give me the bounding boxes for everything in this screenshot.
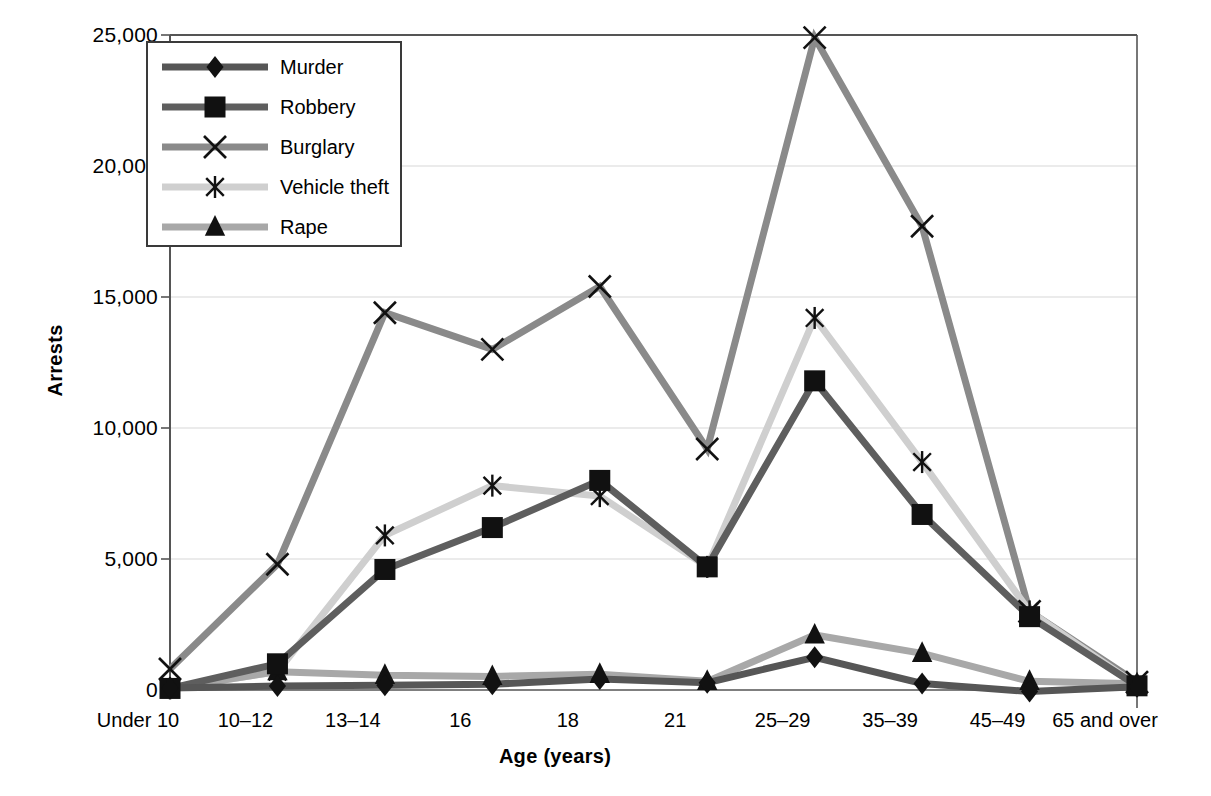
x-axis-title: Age (years): [405, 745, 705, 768]
legend: MurderRobberyBurglaryVehicle theftRape: [146, 41, 402, 247]
legend-item-vehicle-theft: Vehicle theft: [148, 167, 400, 207]
legend-swatch-murder: [160, 47, 270, 87]
marker-vehicle-theft-6: [806, 307, 824, 329]
marker-robbery-3: [482, 517, 503, 538]
marker-murder-6: [806, 646, 823, 668]
legend-label-robbery: Robbery: [280, 96, 356, 118]
legend-item-robbery: Robbery: [148, 87, 400, 127]
marker-burglary-4: [589, 276, 611, 298]
marker-robbery-7: [912, 504, 933, 525]
legend-marker-robbery: [205, 97, 226, 118]
legend-marker-murder: [206, 56, 223, 78]
legend-swatch-vehicle-theft: [160, 167, 270, 207]
y-tick-label: 10,000: [8, 417, 158, 438]
marker-robbery-5: [697, 556, 718, 577]
y-tick-label: 15,000: [8, 286, 158, 307]
x-tick-label: 65 and over: [1005, 710, 1205, 730]
y-tick-label: 20,000: [8, 155, 158, 176]
legend-item-rape: Rape: [148, 207, 400, 247]
marker-vehicle-theft-7: [913, 451, 931, 473]
legend-label-burglary: Burglary: [280, 136, 354, 158]
y-tick-label: 25,000: [8, 24, 158, 45]
y-tick-label: 0: [8, 679, 158, 700]
legend-item-murder: Murder: [148, 47, 400, 87]
y-tick-label: 5,000: [8, 548, 158, 569]
legend-label-vehicle-theft: Vehicle theft: [280, 176, 389, 198]
marker-robbery-4: [589, 470, 610, 491]
legend-label-murder: Murder: [280, 56, 343, 78]
marker-robbery-8: [1019, 606, 1040, 627]
y-axis-title: Arrests: [44, 300, 67, 420]
marker-robbery-2: [374, 559, 395, 580]
legend-label-rape: Rape: [280, 216, 328, 238]
marker-robbery-1: [267, 653, 288, 674]
arrests-by-age-line-chart: 05,00010,00015,00020,00025,000 Under 101…: [0, 0, 1211, 796]
legend-swatch-burglary: [160, 127, 270, 167]
legend-swatch-rape: [160, 207, 270, 247]
marker-robbery-6: [804, 370, 825, 391]
legend-swatch-robbery: [160, 87, 270, 127]
legend-item-burglary: Burglary: [148, 127, 400, 167]
marker-murder-7: [914, 672, 931, 694]
